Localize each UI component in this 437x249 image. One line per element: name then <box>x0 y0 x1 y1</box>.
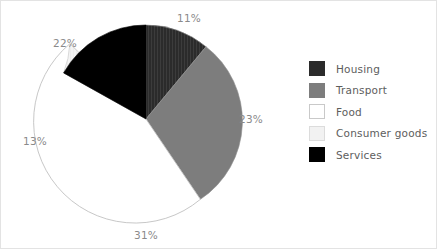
pie-chart-svg <box>1 1 291 249</box>
legend-swatch-icon-housing <box>309 61 325 76</box>
legend-item-food[interactable]: Food <box>309 101 437 123</box>
pie-label-housing: 11% <box>177 12 201 24</box>
chart-screenshot: 11% 23% 31% 13% 22% Housing Transport Fo… <box>0 0 437 249</box>
legend-label-services: Services <box>336 149 382 161</box>
pie-chart-area: 11% 23% 31% 13% 22% <box>1 1 291 249</box>
legend-item-services[interactable]: Services <box>309 144 437 166</box>
legend-label-housing: Housing <box>336 63 380 75</box>
pie-label-transport: 23% <box>239 113 263 125</box>
pie-label-consumer-goods: 13% <box>23 135 47 147</box>
legend-item-housing[interactable]: Housing <box>309 58 437 80</box>
legend-label-transport: Transport <box>336 84 387 96</box>
pie-label-services: 22% <box>53 37 77 49</box>
legend: Housing Transport Food Consumer goods Se… <box>309 58 437 166</box>
legend-label-consumer-goods: Consumer goods <box>336 127 427 139</box>
legend-swatch-icon-services <box>309 147 325 162</box>
legend-item-transport[interactable]: Transport <box>309 80 437 102</box>
legend-swatch-icon-consumer-goods <box>309 126 325 141</box>
pie-label-food: 31% <box>134 229 158 241</box>
legend-swatch-icon-food <box>309 104 325 119</box>
legend-swatch-icon-transport <box>309 83 325 98</box>
legend-label-food: Food <box>336 106 362 118</box>
legend-item-consumer-goods[interactable]: Consumer goods <box>309 123 437 145</box>
